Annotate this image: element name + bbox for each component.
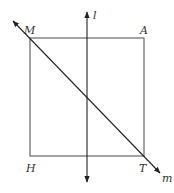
line-label-l: l: [93, 9, 97, 22]
vertex-label-A: A: [139, 24, 148, 37]
vertex-label-T: T: [139, 162, 148, 175]
vertex-label-M: M: [23, 24, 36, 37]
line-label-m: m: [162, 172, 172, 185]
geometry-diagram: M A H T l m: [0, 0, 174, 193]
vertex-label-H: H: [25, 162, 36, 175]
